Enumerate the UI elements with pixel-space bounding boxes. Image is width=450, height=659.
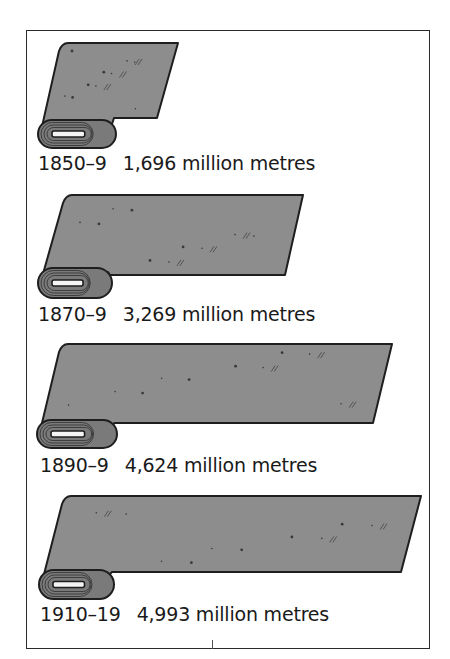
period-label: 1850–9 [38, 152, 107, 174]
value-label: 4,624 million metres [125, 454, 317, 476]
pictogram-chart [0, 0, 450, 659]
row-label-1870: 1870–93,269 million metres [38, 303, 315, 325]
cloth-roll-1850–9 [38, 43, 178, 148]
row-label-1850: 1850–91,696 million metres [38, 152, 315, 174]
row-label-1910: 1910–194,993 million metres [40, 603, 329, 625]
period-label: 1910–19 [40, 603, 121, 625]
value-label: 4,993 million metres [137, 603, 329, 625]
row-label-1890: 1890–94,624 million metres [40, 454, 317, 476]
value-label: 3,269 million metres [123, 303, 315, 325]
period-label: 1870–9 [38, 303, 107, 325]
cloth-roll-1890–9 [37, 344, 392, 448]
value-label: 1,696 million metres [123, 152, 315, 174]
bottom-tick-mark [212, 640, 213, 649]
cloth-roll-1870–9 [38, 195, 303, 298]
period-label: 1890–9 [40, 454, 109, 476]
cloth-roll-1910–19 [39, 496, 421, 599]
